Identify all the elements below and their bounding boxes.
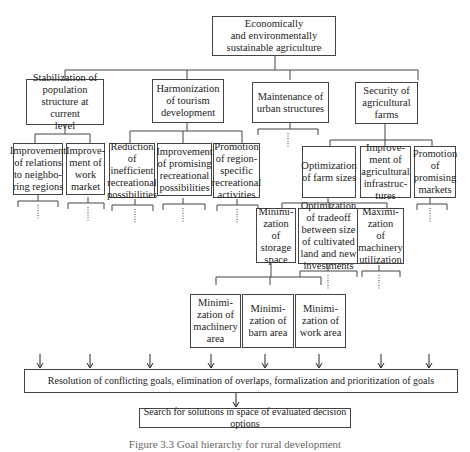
goal-optimize-land-investment: Optimization of tradeoff between size of… <box>298 208 359 264</box>
goal-reduce-inefficient-recreation: Reduction of inefficient recreational po… <box>109 143 155 198</box>
goal-optimize-farm-sizes: Optimization of farm sizes <box>302 146 356 198</box>
arrow-down-icon <box>233 393 239 407</box>
goal-maintenance-urban: Maintenance of urban structures <box>252 82 329 123</box>
truncated-branch-stub <box>362 265 400 289</box>
goal-improve-work-market: Improve- ment of work market <box>66 143 105 195</box>
resolution-box: Resolution of conflicting goals, elimina… <box>24 369 458 393</box>
goal-minimize-work-area: Minimi- zation of work area <box>295 294 346 348</box>
goal-minimize-storage-space: Minimi- zation of storage space <box>256 208 296 263</box>
truncated-branch-stub <box>112 199 153 223</box>
truncated-branch-stub <box>163 198 205 222</box>
arrow-down-icon <box>147 354 153 368</box>
goal-promote-region-recreation: Promotion of region- specific recreation… <box>213 143 260 198</box>
arrow-down-icon <box>316 354 322 368</box>
arrow-down-icon <box>262 354 268 368</box>
goal-promote-markets: Promotion of promising markets <box>414 146 456 198</box>
goal-improve-neighbor-relations: Improvement of relations to neighbo- rin… <box>13 143 63 195</box>
goal-stabilization-population: Stabilization of population structure at… <box>26 79 104 125</box>
arrow-down-icon <box>426 354 432 368</box>
figure-caption: Figure 3.3 Goal hierarchy for rural deve… <box>0 438 470 450</box>
goal-improve-promising-recreation: Improvement of promising recreational po… <box>157 143 212 196</box>
root-goal-box: Economically and environmentally sustain… <box>212 16 336 56</box>
arrow-down-icon <box>208 354 214 368</box>
goal-minimize-machinery-area: Minimi- zation of machinery area <box>190 294 241 348</box>
arrow-down-icon <box>378 354 384 368</box>
search-solutions-box: Search for solutions in space of evaluat… <box>139 408 351 428</box>
truncated-branch-stub <box>217 199 258 223</box>
goal-harmonization-tourism: Harmonization of tourism development <box>152 79 224 123</box>
goal-improve-agri-infrastructure: Improve- ment of agricultural infrastruc… <box>360 146 411 198</box>
goal-security-farms: Security of agricultural farms <box>355 82 418 124</box>
truncated-branch-stub <box>68 197 104 221</box>
goal-maximize-machinery: Maximi- zation of machinery utilization <box>357 208 404 264</box>
arrow-down-icon <box>87 354 93 368</box>
arrow-down-icon <box>37 354 43 368</box>
truncated-branch-stub <box>417 198 447 222</box>
goal-minimize-barn-area: Minimi- zation of barn area <box>242 294 294 348</box>
truncated-branch-stub <box>18 195 58 219</box>
